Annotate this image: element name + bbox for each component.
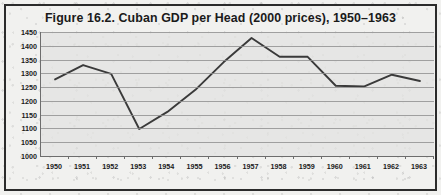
x-axis-tick-label: 1950 xyxy=(46,162,62,171)
y-axis-tick-label: 1300 xyxy=(3,69,37,78)
x-axis-tick-mark xyxy=(208,156,209,159)
gridline xyxy=(41,46,434,47)
x-axis-tick-label: 1958 xyxy=(271,162,287,171)
x-axis-tick-label: 1953 xyxy=(130,162,146,171)
x-axis-tick-mark xyxy=(152,156,153,159)
x-axis-tick-mark xyxy=(265,156,266,159)
y-axis-tick-label: 1350 xyxy=(3,55,37,64)
gridline xyxy=(41,142,434,143)
x-axis-tick-label: 1961 xyxy=(355,162,371,171)
x-axis-tick-mark xyxy=(96,156,97,159)
x-axis-tick-mark xyxy=(349,156,350,159)
x-axis-tick-label: 1951 xyxy=(74,162,90,171)
x-axis-tick-label: 1963 xyxy=(411,162,427,171)
x-axis-tick-mark xyxy=(377,156,378,159)
figure-container: Figure 16.2. Cuban GDP per Head (2000 pr… xyxy=(0,0,441,195)
y-axis-tick-label: 1150 xyxy=(3,110,37,119)
x-axis-tick-mark xyxy=(321,156,322,159)
x-axis-ticks xyxy=(40,156,433,160)
x-axis-tick-mark xyxy=(68,156,69,159)
gridline xyxy=(41,115,434,116)
x-axis-tick-label: 1955 xyxy=(186,162,202,171)
x-axis-tick-mark xyxy=(180,156,181,159)
y-axis-tick-label: 1000 xyxy=(3,152,37,161)
x-axis-tick-label: 1962 xyxy=(383,162,399,171)
gridline xyxy=(41,32,434,33)
x-axis-tick-mark xyxy=(405,156,406,159)
x-axis-labels: 1950195119521953195419551956195719581959… xyxy=(40,162,433,176)
gridline xyxy=(41,73,434,74)
gridline xyxy=(41,101,434,102)
x-axis-tick-label: 1952 xyxy=(102,162,118,171)
y-axis-tick-label: 1450 xyxy=(3,28,37,37)
gridline xyxy=(41,128,434,129)
x-axis-tick-label: 1956 xyxy=(214,162,230,171)
x-axis-tick-label: 1957 xyxy=(243,162,259,171)
y-axis-tick-label: 1250 xyxy=(3,83,37,92)
x-axis-tick-label: 1960 xyxy=(327,162,343,171)
x-axis-tick-mark xyxy=(124,156,125,159)
x-axis-tick-mark xyxy=(237,156,238,159)
y-axis-tick-label: 1400 xyxy=(3,41,37,50)
x-axis-tick-mark xyxy=(293,156,294,159)
line-chart-svg xyxy=(41,32,434,156)
y-axis-tick-label: 1100 xyxy=(3,124,37,133)
y-axis-tick-label: 1200 xyxy=(3,96,37,105)
x-axis-tick-label: 1954 xyxy=(158,162,174,171)
x-axis-tick-label: 1959 xyxy=(299,162,315,171)
gridline xyxy=(41,87,434,88)
x-axis-tick-mark xyxy=(433,156,434,159)
y-axis-tick-label: 1050 xyxy=(3,138,37,147)
gridline xyxy=(41,60,434,61)
plot-area xyxy=(40,32,434,157)
figure-title: Figure 16.2. Cuban GDP per Head (2000 pr… xyxy=(10,9,431,27)
y-axis-labels: 1000105011001150120012501300135014001450 xyxy=(0,32,37,156)
